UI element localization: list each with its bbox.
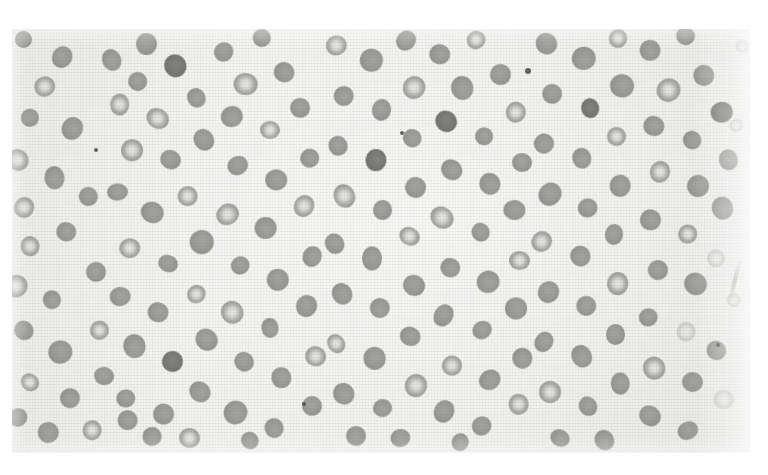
red-blood-cell <box>575 393 601 419</box>
red-blood-cell <box>266 268 289 292</box>
red-blood-cell <box>270 366 293 391</box>
red-blood-cell <box>230 348 257 375</box>
red-blood-cell <box>641 113 668 139</box>
red-blood-cell <box>531 329 557 356</box>
red-blood-cell <box>365 148 388 172</box>
red-blood-cell <box>399 125 425 151</box>
red-blood-cell <box>502 199 526 221</box>
red-blood-cell <box>75 183 101 209</box>
red-blood-cell <box>216 296 248 328</box>
red-blood-cell <box>329 181 358 212</box>
red-blood-cell <box>674 29 699 48</box>
red-blood-cell <box>183 281 209 307</box>
red-blood-cell <box>17 369 43 395</box>
red-blood-cell <box>504 100 528 125</box>
red-blood-cell <box>570 145 594 170</box>
red-blood-cell <box>89 318 112 341</box>
red-blood-cell <box>647 158 673 185</box>
red-blood-cell <box>528 228 557 257</box>
red-blood-cell <box>437 155 466 184</box>
red-blood-cell <box>178 426 202 450</box>
red-blood-cell <box>57 385 82 410</box>
red-blood-cell <box>185 377 215 406</box>
red-blood-cell <box>713 390 735 410</box>
red-blood-cell <box>265 169 287 190</box>
red-blood-cell <box>511 347 533 369</box>
red-blood-cell <box>323 331 349 357</box>
red-blood-cell <box>449 430 471 453</box>
red-blood-cell <box>12 194 37 222</box>
red-blood-cell <box>137 198 167 227</box>
red-blood-cell <box>218 102 247 130</box>
red-blood-cell <box>703 246 728 271</box>
red-blood-cell <box>233 72 259 96</box>
red-blood-cell <box>709 194 736 222</box>
page-canvas <box>0 0 768 475</box>
red-blood-cell <box>227 253 253 279</box>
red-blood-cell <box>716 148 740 173</box>
red-blood-cell <box>48 42 76 71</box>
red-blood-cell <box>115 387 138 409</box>
red-blood-cell <box>31 72 59 100</box>
red-blood-cell <box>439 352 466 379</box>
red-blood-cell <box>342 422 370 450</box>
red-blood-cell <box>183 85 209 111</box>
red-blood-cell <box>651 74 684 107</box>
red-blood-cell <box>392 29 420 54</box>
dust-speck-low <box>302 402 306 406</box>
red-blood-cell <box>35 419 62 446</box>
red-blood-cell <box>161 51 191 81</box>
red-blood-cell <box>427 41 453 66</box>
red-blood-cell <box>509 250 531 270</box>
red-blood-cell <box>46 338 75 366</box>
red-blood-cell <box>270 58 299 87</box>
red-blood-cell <box>331 83 356 108</box>
red-blood-cell <box>93 365 116 387</box>
red-blood-cell <box>639 353 668 383</box>
red-blood-cell <box>401 173 430 202</box>
red-blood-cell <box>190 125 218 154</box>
red-blood-cell <box>681 371 704 393</box>
red-blood-cell <box>675 321 697 344</box>
dust-speck-top <box>525 68 531 74</box>
dust-speck-mid <box>400 131 404 135</box>
red-blood-cell <box>469 317 495 343</box>
red-blood-cell <box>325 133 350 159</box>
red-blood-cell <box>159 349 185 375</box>
red-blood-cell <box>398 72 430 104</box>
red-blood-cell <box>397 323 423 348</box>
red-blood-cell <box>639 39 661 61</box>
red-blood-cell <box>437 255 464 282</box>
red-blood-cell <box>371 398 393 419</box>
red-blood-cell <box>43 165 66 190</box>
red-blood-cell <box>682 170 713 201</box>
red-blood-cell <box>538 80 567 109</box>
red-blood-cell <box>359 46 386 73</box>
red-blood-cell <box>372 200 392 221</box>
red-blood-cell <box>692 64 716 88</box>
red-blood-cell <box>530 130 558 158</box>
red-blood-cell <box>604 223 625 246</box>
red-blood-cell <box>12 405 31 431</box>
red-blood-cell <box>431 107 462 138</box>
red-blood-cell <box>547 426 573 451</box>
red-blood-cell <box>329 379 359 409</box>
red-blood-cell <box>426 202 458 233</box>
red-blood-cell <box>402 371 430 400</box>
red-blood-cell <box>156 252 181 276</box>
red-blood-cell <box>210 38 238 66</box>
red-blood-cell <box>152 401 177 426</box>
red-blood-cell <box>135 32 158 56</box>
red-blood-cell <box>575 196 600 221</box>
red-blood-cell <box>448 74 476 103</box>
red-blood-cell <box>675 417 702 442</box>
red-blood-cell <box>328 279 357 308</box>
red-blood-cell <box>606 29 629 50</box>
red-blood-cell <box>125 69 152 96</box>
red-blood-cell <box>702 336 729 363</box>
red-blood-cell <box>472 125 495 147</box>
red-blood-cell <box>21 108 40 127</box>
red-blood-cell <box>567 243 594 270</box>
red-blood-cell <box>81 419 102 442</box>
red-blood-cell <box>608 173 633 198</box>
